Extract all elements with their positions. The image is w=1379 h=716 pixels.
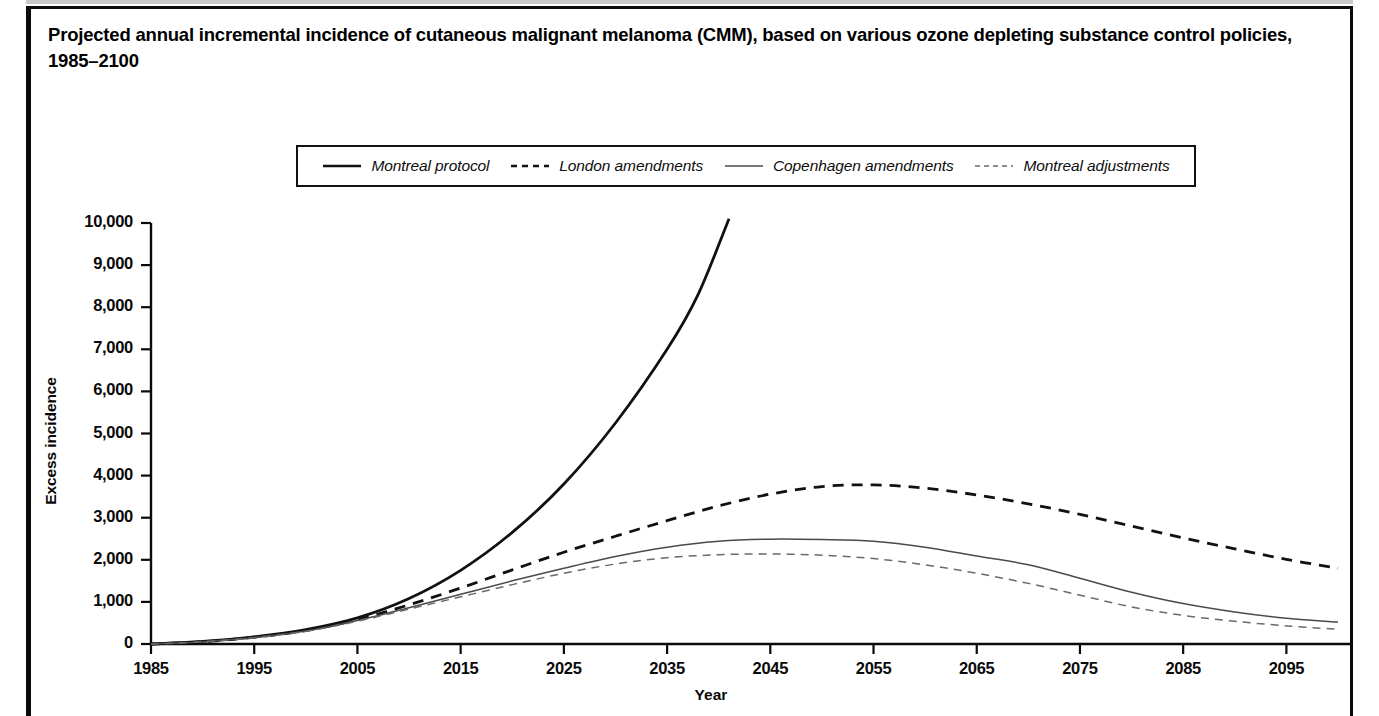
x-axis-title: Year: [651, 686, 771, 704]
x-tick-label: 2035: [627, 659, 707, 678]
x-tick-label: 2005: [317, 659, 397, 678]
y-tick-label: 6,000: [55, 380, 133, 399]
series-line-copenhagen-amendments: [151, 539, 1338, 644]
figure-title: Projected annual incremental incidence o…: [48, 22, 1318, 75]
x-tick-label: 2075: [1040, 659, 1120, 678]
x-tick-label: 2015: [421, 659, 501, 678]
legend-label: Montreal protocol: [371, 157, 489, 175]
figure-top-border: [26, 6, 1353, 9]
series-line-montreal-adjustments: [151, 554, 1338, 644]
y-tick-label: 10,000: [55, 212, 133, 231]
series-line-london-amendments: [151, 485, 1338, 644]
legend-swatch-dashed-thick: [510, 161, 550, 171]
figure-right-border: [1350, 6, 1353, 716]
series-line-montreal-protocol: [151, 219, 729, 644]
legend-label: Copenhagen amendments: [773, 157, 954, 175]
y-tick-label: 5,000: [55, 423, 133, 442]
x-tick-label: 2065: [937, 659, 1017, 678]
y-tick-label: 4,000: [55, 465, 133, 484]
y-tick-label: 9,000: [55, 254, 133, 273]
y-tick-label: 7,000: [55, 338, 133, 357]
legend-item-copenhagen-amendments[interactable]: Copenhagen amendments: [724, 157, 954, 175]
legend-swatch-solid-thin: [724, 161, 764, 171]
x-tick-label: 2045: [730, 659, 810, 678]
legend-label: Montreal adjustments: [1023, 157, 1169, 175]
y-tick-label: 0: [55, 633, 133, 652]
figure-container: Projected annual incremental incidence o…: [0, 0, 1379, 716]
x-tick-label: 2025: [524, 659, 604, 678]
legend-swatch-dashed-thin: [974, 161, 1014, 171]
legend-label: London amendments: [559, 157, 703, 175]
legend-swatch-solid-thick: [322, 161, 362, 171]
x-tick-label: 1985: [111, 659, 191, 678]
legend-item-montreal-adjustments[interactable]: Montreal adjustments: [974, 157, 1169, 175]
x-tick-label: 2095: [1246, 659, 1326, 678]
y-tick-label: 2,000: [55, 549, 133, 568]
figure-left-border: [26, 6, 31, 716]
y-tick-label: 8,000: [55, 296, 133, 315]
x-tick-label: 2055: [834, 659, 914, 678]
legend-item-montreal-protocol[interactable]: Montreal protocol: [322, 157, 489, 175]
y-tick-label: 1,000: [55, 591, 133, 610]
chart-legend: Montreal protocol London amendments Cope…: [296, 145, 1196, 187]
legend-item-london-amendments[interactable]: London amendments: [510, 157, 703, 175]
plot-area: [0, 0, 1379, 716]
x-tick-label: 1995: [214, 659, 294, 678]
chart-svg: [0, 0, 1379, 716]
x-tick-label: 2085: [1143, 659, 1223, 678]
figure-top-shadow: [26, 0, 1353, 4]
y-tick-label: 3,000: [55, 507, 133, 526]
